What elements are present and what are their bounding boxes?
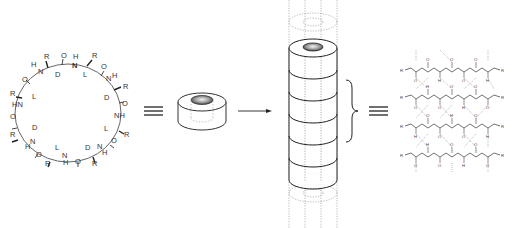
label-h: H xyxy=(63,158,68,167)
atom-o: O xyxy=(438,105,442,110)
atom-o: O xyxy=(462,78,466,83)
atom-o: O xyxy=(426,113,430,118)
atom-o: O xyxy=(474,84,478,89)
end-group-r: R xyxy=(501,124,504,129)
end-group-r: R xyxy=(400,95,403,100)
label-stereo: D xyxy=(85,143,91,152)
label-stereo: L xyxy=(83,70,87,79)
atom-h: H xyxy=(426,142,429,147)
end-group-r: R xyxy=(501,153,504,158)
equivalence-symbol xyxy=(369,107,388,115)
end-group-r: R xyxy=(501,95,504,100)
label-n: N xyxy=(72,61,77,70)
atom-o: O xyxy=(450,57,454,62)
label-stereo: L xyxy=(32,92,36,101)
label-stereo: L xyxy=(104,124,108,133)
atom-o: O xyxy=(486,163,490,168)
diagram-canvas: R O H N R O H N D L O N H R R L D HN O O… xyxy=(0,0,516,228)
atom-o: O xyxy=(438,134,442,139)
label-r: R xyxy=(44,52,50,61)
label-hn: HN xyxy=(12,100,23,109)
atom-h: H xyxy=(426,84,429,89)
atom-o: O xyxy=(414,105,418,110)
atom-o: O xyxy=(414,163,418,168)
atom-h: H xyxy=(450,113,453,118)
atom-o: O xyxy=(486,105,490,110)
label-o: O xyxy=(10,112,16,121)
label-o: O xyxy=(101,62,107,71)
label-h: H xyxy=(73,52,78,61)
hbond-network: R R R R R R R R O O H O O O H O H O O H … xyxy=(400,50,504,172)
label-nh: NH xyxy=(114,111,125,120)
label-r: R xyxy=(45,159,51,168)
label-stereo: L xyxy=(55,143,59,152)
atom-o: O xyxy=(426,57,430,62)
cyclic-peptide-structure: R O H N R O H N D L O N H R R L D HN O O… xyxy=(10,51,130,168)
end-group-r: R xyxy=(400,124,403,129)
label-h: H xyxy=(31,60,36,69)
atom-o: O xyxy=(438,163,442,168)
label-r: R xyxy=(124,130,130,139)
label-o: O xyxy=(111,136,117,145)
label-h: H xyxy=(102,148,107,157)
curly-brace xyxy=(346,80,358,142)
equivalence-symbol xyxy=(144,107,163,115)
end-group-r: R xyxy=(400,68,403,73)
label-h: H xyxy=(112,71,117,80)
label-o: O xyxy=(22,75,28,84)
atom-h: H xyxy=(438,78,441,83)
atom-o: O xyxy=(474,57,478,62)
label-n: N xyxy=(38,67,43,76)
label-n: N xyxy=(106,74,111,83)
label-h: H xyxy=(25,142,30,151)
nanotube xyxy=(289,0,337,228)
label-r: R xyxy=(123,82,129,91)
atom-o: O xyxy=(474,113,478,118)
atom-o: O xyxy=(474,142,478,147)
atom-h: H xyxy=(486,78,489,83)
label-stereo: D xyxy=(32,123,38,132)
label-stereo: D xyxy=(55,70,61,79)
label-r: R xyxy=(92,51,98,60)
label-n: N xyxy=(30,137,35,146)
label-o: O xyxy=(122,99,128,108)
label-r: R xyxy=(92,159,98,168)
atom-o: O xyxy=(450,84,454,89)
end-group-r: R xyxy=(400,153,403,158)
label-r: R xyxy=(10,130,16,139)
atom-h: H xyxy=(462,163,465,168)
assembly-arrow xyxy=(238,109,272,113)
atom-o: O xyxy=(450,142,454,147)
atom-o: O xyxy=(462,134,466,139)
atom-h: H xyxy=(462,105,465,110)
atom-o: O xyxy=(414,78,418,83)
atom-h: H xyxy=(414,134,417,139)
end-group-r: R xyxy=(501,68,504,73)
label-o: O xyxy=(75,157,81,166)
label-o: O xyxy=(61,51,67,60)
label-o: O xyxy=(36,150,42,159)
label-r: R xyxy=(10,89,16,98)
ring-model xyxy=(178,93,226,130)
atom-h: H xyxy=(486,134,489,139)
label-stereo: D xyxy=(104,93,110,102)
